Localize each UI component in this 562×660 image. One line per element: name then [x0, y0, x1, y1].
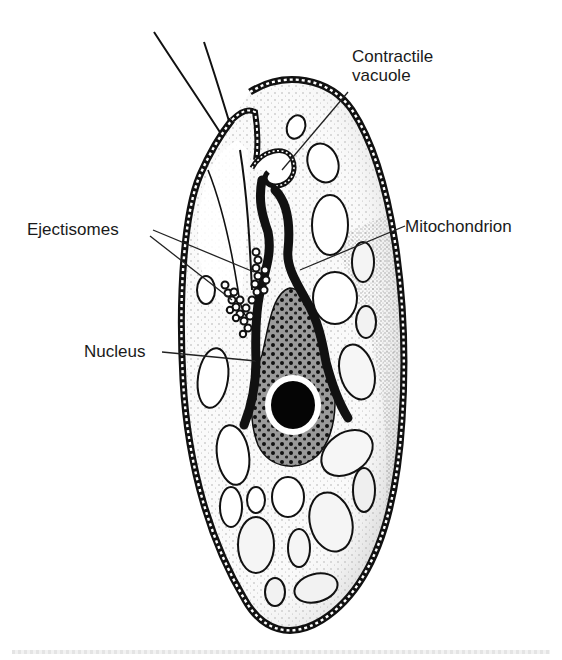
scan-artifact-bar: [12, 650, 550, 654]
cell-illustration: [0, 0, 562, 660]
cell-diagram: Contractile vacuole Mitochondrion Ejecti…: [0, 0, 562, 660]
label-contractile-line2: vacuole: [352, 66, 433, 85]
label-contractile-vacuole: Contractile vacuole: [352, 47, 433, 85]
label-nucleus: Nucleus: [84, 342, 145, 361]
label-mitochondrion: Mitochondrion: [405, 217, 512, 236]
label-ejectisomes: Ejectisomes: [27, 220, 119, 239]
label-contractile-line1: Contractile: [352, 47, 433, 66]
